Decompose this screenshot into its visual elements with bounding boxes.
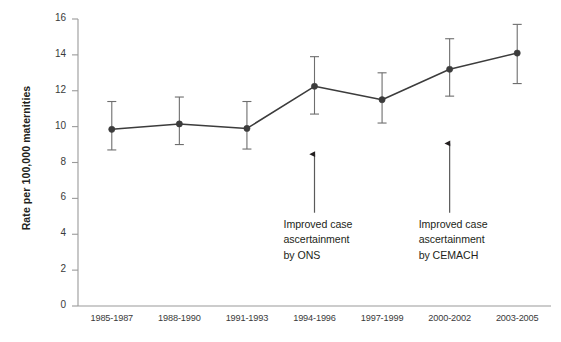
data-point-marker <box>176 121 182 127</box>
annotation-arrows <box>315 143 450 212</box>
annotation-text-cemach: Improved case ascertainment by CEMACH <box>419 217 488 264</box>
annotation-text-ons: Improved case ascertainment by ONS <box>284 217 353 264</box>
data-point-marker <box>447 66 453 72</box>
y-axis-tick-label: 10 <box>40 120 66 131</box>
y-axis-ticks <box>72 19 78 306</box>
data-point-marker <box>311 83 317 89</box>
y-axis-tick-label: 2 <box>40 263 66 274</box>
data-point-marker <box>109 126 115 132</box>
y-axis-tick-label: 0 <box>40 299 66 310</box>
y-axis-tick-label: 12 <box>40 84 66 95</box>
y-axis-tick-label: 16 <box>40 12 66 23</box>
y-axis-tick-label: 6 <box>40 191 66 202</box>
chart-plot-svg <box>0 0 561 342</box>
y-axis-tick-label: 8 <box>40 156 66 167</box>
data-point-marker <box>514 50 520 56</box>
y-axis-tick-label: 4 <box>40 227 66 238</box>
data-point-marker <box>379 97 385 103</box>
data-point-marker <box>244 125 250 131</box>
chart-figure: Rate per 100,000 maternities 02468101214… <box>0 0 561 342</box>
x-axis-tick-label: 2003-2005 <box>477 313 557 323</box>
y-axis-tick-label: 14 <box>40 48 66 59</box>
